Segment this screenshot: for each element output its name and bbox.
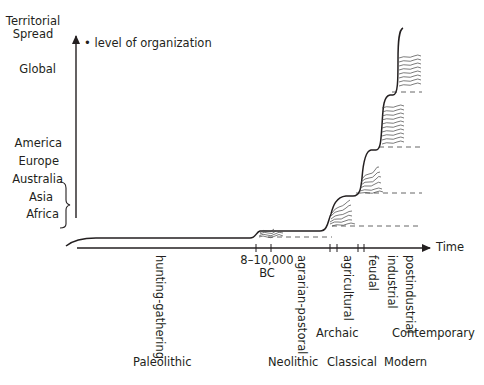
- organization-curve: [66, 28, 403, 246]
- level-asia: Asia: [29, 191, 53, 204]
- y-axis-title-line2: Spread: [4, 28, 62, 41]
- y-axis-title: Territorial Spread: [4, 15, 62, 41]
- level-africa: Africa: [26, 208, 59, 221]
- formation-industrial: industrial: [385, 255, 398, 309]
- formation-hunting-gathering: hunting-gathering: [153, 255, 166, 359]
- dashed-level-lines: [268, 92, 422, 237]
- formation-feudal: feudal: [366, 255, 379, 291]
- formation-agrarian-pastoral: agrarian-pastoral: [295, 255, 308, 354]
- level-america: America: [15, 137, 62, 150]
- legend-label: • level of organization: [84, 37, 212, 50]
- date-label: 8–10,000 BC: [240, 254, 294, 280]
- epoch-contemporary: Contemporary: [392, 327, 475, 340]
- epoch-paleolithic: Paleolithic: [133, 356, 191, 369]
- branch-lines: [259, 55, 421, 238]
- epoch-modern: Modern: [384, 356, 427, 369]
- epoch-neolithic: Neolithic: [268, 356, 318, 369]
- formation-agricultural: agricultural: [341, 255, 354, 321]
- date-label-line2: BC: [240, 267, 294, 280]
- epoch-archaic: Archaic: [316, 327, 359, 340]
- formation-postindustrial: postindustrial: [403, 255, 416, 334]
- level-global: Global: [19, 63, 56, 76]
- epoch-classical: Classical: [327, 356, 377, 369]
- level-australia: Australia: [12, 173, 63, 186]
- brace-icon: [60, 182, 70, 228]
- x-axis-title: Time: [436, 241, 464, 254]
- level-europe: Europe: [19, 155, 59, 168]
